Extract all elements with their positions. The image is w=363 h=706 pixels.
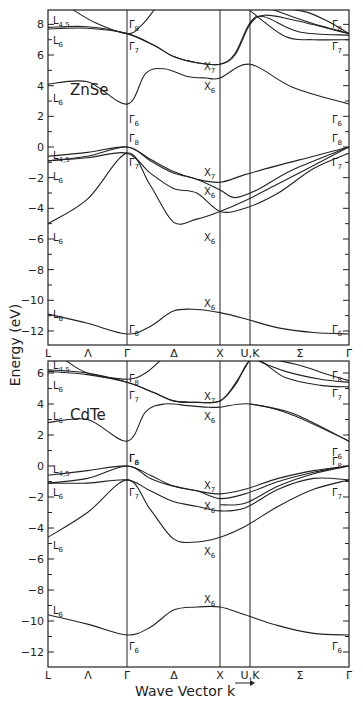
symmetry-point-label: Γ8 [332, 370, 342, 384]
symmetry-point-label: Γ6 [129, 641, 140, 655]
band-vb-bottom [48, 309, 349, 334]
symmetry-point-label: Γ7 [129, 487, 139, 501]
symmetry-point-label: L6 [53, 232, 64, 246]
y-tick-label: 4 [37, 398, 44, 411]
band-vb-top-2 [48, 147, 349, 198]
band-vb-top-3 [48, 152, 349, 212]
y-tick-label: 6 [37, 49, 44, 62]
symmetry-point-label: Γ7 [332, 157, 342, 171]
k-point-label-bottom: Δ [170, 669, 178, 682]
panel-znse: 86420−2−4−6−8−10−12L4,5L6Γ8Γ7L6Γ6X7X6Γ8Γ… [21, 9, 349, 345]
symmetry-point-label: Γ8 [129, 133, 139, 147]
symmetry-point-label: Γ8 [332, 19, 342, 33]
y-tick-label: 2 [37, 429, 44, 442]
y-tick-label: 0 [37, 141, 44, 154]
band-vb-bottom [48, 606, 349, 635]
symmetry-point-label: L6 [53, 487, 64, 501]
k-point-label-top: Γ [124, 347, 131, 360]
k-point-label-bottom: X [216, 669, 224, 682]
y-tick-label: −6 [28, 233, 44, 246]
band-cb-upper-2 [48, 16, 349, 65]
symmetry-point-label: Γ8 [129, 19, 139, 33]
symmetry-point-label: Γ7 [129, 41, 139, 55]
y-tick-label: −6 [28, 553, 44, 566]
band-cb-upper-3 [72, 9, 155, 34]
y-tick-label: −10 [21, 615, 44, 628]
symmetry-point-label: Γ6 [129, 114, 140, 128]
k-point-label-top: Σ [297, 347, 304, 360]
symmetry-point-label: L6 [53, 380, 64, 394]
y-axis-title: Energy (eV) [7, 304, 23, 387]
y-tick-label: 6 [37, 367, 44, 380]
symmetry-point-label: X6 [204, 501, 216, 515]
k-point-label-bottom: Λ [84, 669, 92, 682]
symmetry-point-label: Γ8 [129, 453, 139, 467]
y-tick-label: −12 [21, 646, 44, 659]
k-point-label-bottom: L [45, 669, 52, 682]
y-tick-label: 4 [37, 80, 44, 93]
y-tick-label: −2 [28, 172, 44, 185]
symmetry-point-label: L6 [53, 605, 64, 619]
k-point-label-top: Λ [84, 347, 92, 360]
band-vb-middle [48, 480, 349, 543]
k-point-label-bottom: Σ [297, 669, 304, 682]
panel-cdte: 6420−2−4−6−8−10−12L4,5L6Γ8Γ7L6Γ6X7X6Γ8Γ7… [21, 359, 349, 667]
symmetry-point-label: X6 [204, 186, 216, 200]
k-point-label-top: Γ [346, 347, 353, 360]
symmetry-point-label: Γ6 [332, 641, 343, 655]
y-tick-label: 8 [37, 18, 44, 31]
symmetry-point-label: L6 [53, 93, 64, 107]
y-tick-label: 0 [37, 460, 44, 473]
symmetry-point-label: Γ8 [129, 373, 139, 387]
panel-frame [48, 10, 349, 345]
k-point-label-top: U,K [241, 347, 261, 360]
y-tick-label: −8 [28, 264, 44, 277]
symmetry-point-label: X7 [204, 61, 215, 75]
symmetry-point-label: X6 [204, 411, 216, 425]
y-tick-label: −12 [21, 325, 44, 338]
symmetry-point-label: Γ6 [332, 324, 343, 338]
band-cb-lowest-b [250, 404, 349, 441]
k-point-label-top: L [45, 347, 52, 360]
y-tick-label: −8 [28, 584, 44, 597]
symmetry-point-label: Γ7 [332, 41, 342, 55]
k-point-label-bottom: Γ [124, 669, 131, 682]
y-tick-label: −2 [28, 491, 44, 504]
symmetry-point-label: X7 [204, 480, 215, 494]
y-tick-label: −4 [28, 202, 44, 215]
symmetry-point-label: L4,5 [53, 150, 70, 164]
x-axis-title: Wave Vector k [135, 683, 236, 699]
symmetry-point-label: L6 [53, 35, 64, 49]
band-cb-upper-1 [48, 359, 349, 403]
symmetry-point-label: L6 [53, 309, 64, 323]
k-point-label-bottom: Γ [346, 669, 353, 682]
band-vb-top-3 [48, 478, 349, 511]
k-point-label-top: Δ [170, 347, 178, 360]
y-tick-label: −4 [28, 522, 44, 535]
symmetry-point-label: X6 [204, 81, 216, 95]
material-label: ZnSe [70, 81, 109, 99]
symmetry-point-label: X6 [204, 546, 216, 560]
y-tick-label: −10 [21, 294, 44, 307]
band-structure-figure: 86420−2−4−6−8−10−12L4,5L6Γ8Γ7L6Γ6X7X6Γ8Γ… [0, 0, 363, 706]
symmetry-point-label: X6 [204, 232, 216, 246]
symmetry-point-label: L6 [53, 171, 64, 185]
symmetry-point-label: L6 [53, 540, 64, 554]
symmetry-point-label: Γ7 [332, 487, 342, 501]
symmetry-point-label: X7 [204, 167, 215, 181]
band-vb-top-4 [220, 466, 349, 505]
y-tick-label: 2 [37, 110, 44, 123]
symmetry-point-label: L4,5 [53, 464, 70, 478]
k-point-label-bottom: U,K [241, 669, 261, 682]
band-cb-upper-3 [64, 359, 162, 379]
material-label: CdTe [70, 406, 106, 424]
symmetry-point-label: Γ7 [332, 388, 342, 402]
symmetry-point-label: Γ6 [332, 114, 343, 128]
symmetry-point-label: Γ6 [129, 324, 140, 338]
k-point-label-top: X [216, 347, 224, 360]
symmetry-point-label: Γ7 [129, 390, 139, 404]
symmetry-point-label: Γ8 [332, 133, 342, 147]
symmetry-point-label: L6 [53, 411, 64, 425]
